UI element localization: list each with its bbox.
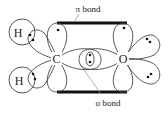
carbon-orbitals <box>28 23 101 92</box>
hydrogen-top-label: H <box>14 26 23 40</box>
orbital-diagram: C O H H π bond σ bond <box>0 0 168 115</box>
sigma-bond-label: σ bond <box>95 98 121 108</box>
hydrogen-bottom-label: H <box>15 74 24 88</box>
oxygen-label: O <box>119 52 128 66</box>
pi-bond-pointer <box>74 14 79 22</box>
pi-bond-label: π bond <box>76 4 101 14</box>
sigma-bond-pointer <box>80 64 101 94</box>
carbon-label: C <box>52 52 60 66</box>
